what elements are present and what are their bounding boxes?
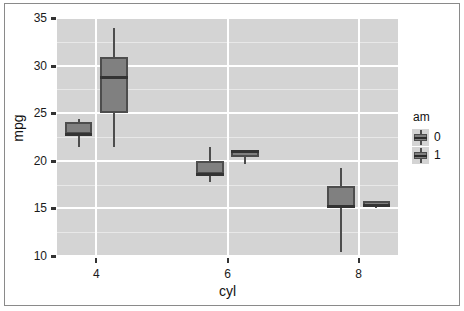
- grid-major-x: [358, 18, 360, 256]
- y-tick-mark: [51, 112, 56, 115]
- legend-key-icon: [412, 129, 429, 146]
- legend-key-icon: [412, 147, 429, 164]
- x-tick-mark: [95, 258, 97, 263]
- x-axis-title: cyl: [57, 283, 398, 299]
- x-tick-label: 4: [81, 268, 111, 280]
- legend-label: 0: [434, 131, 441, 143]
- legend: am 01: [412, 110, 460, 164]
- grid-major-x: [95, 18, 97, 256]
- y-tick-mark: [51, 255, 56, 258]
- whisker-line: [340, 168, 342, 252]
- plot-panel: [57, 18, 398, 256]
- y-tick-label: 35: [19, 12, 47, 24]
- y-tick-mark: [51, 17, 56, 20]
- box-rect: [100, 57, 128, 113]
- x-tick-label: 8: [344, 268, 374, 280]
- y-tick-label: 30: [19, 60, 47, 72]
- x-tick-mark: [358, 258, 360, 263]
- median-line: [231, 150, 259, 153]
- y-tick-mark: [51, 160, 56, 163]
- legend-item-1[interactable]: 1: [412, 146, 460, 164]
- legend-label: 1: [434, 149, 441, 161]
- x-tick-label: 6: [213, 268, 243, 280]
- median-line: [196, 173, 224, 176]
- legend-median: [414, 137, 427, 139]
- y-axis-title: mpg: [10, 88, 26, 168]
- median-line: [100, 76, 128, 79]
- legend-title: am: [413, 110, 460, 124]
- boxplot-figure: 101520253035 mpg 468 cyl am 01: [0, 0, 464, 311]
- grid-major-x: [227, 18, 229, 256]
- median-line: [327, 205, 355, 208]
- y-tick-mark: [51, 207, 56, 210]
- x-tick-mark: [227, 258, 229, 263]
- median-line: [65, 133, 93, 136]
- legend-entries: 01: [412, 128, 460, 164]
- median-line: [363, 204, 391, 207]
- legend-item-0[interactable]: 0: [412, 128, 460, 146]
- y-tick-label: 15: [19, 202, 47, 214]
- y-tick-mark: [51, 65, 56, 68]
- legend-median: [414, 155, 427, 157]
- y-tick-label: 10: [19, 250, 47, 262]
